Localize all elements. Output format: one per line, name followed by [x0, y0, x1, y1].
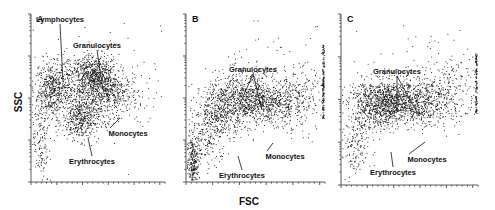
scatter-panel-b: BGranulocytesMonocytesErythrocytes [183, 14, 325, 185]
svg-text:Erythrocytes: Erythrocytes [370, 168, 416, 177]
svg-text:Lymphocytes: Lymphocytes [36, 15, 84, 24]
annotation-monocytes: Monocytes [407, 142, 446, 164]
panel-label: B [192, 14, 199, 24]
scatter-panel-c: CGranulocytesMonocytesErythrocytes [338, 14, 478, 188]
svg-text:Monocytes: Monocytes [108, 129, 147, 138]
svg-text:Monocytes: Monocytes [265, 152, 304, 161]
scatter-panel-a: ALymphocytesGranulocytesMonocytesErythro… [28, 14, 165, 185]
annotation-erythrocytes: Erythrocytes [69, 138, 115, 166]
annotation-monocytes: Monocytes [108, 118, 147, 138]
y-axis-label: SSC [13, 92, 24, 113]
svg-text:Erythrocytes: Erythrocytes [219, 171, 265, 180]
svg-text:Monocytes: Monocytes [407, 155, 446, 164]
flow-cytometry-figure: ALymphocytesGranulocytesMonocytesErythro… [0, 0, 495, 210]
scatter-panels: ALymphocytesGranulocytesMonocytesErythro… [28, 14, 478, 188]
annotation-monocytes: Monocytes [265, 143, 304, 161]
svg-text:Granulocytes: Granulocytes [73, 41, 121, 50]
svg-text:Erythrocytes: Erythrocytes [69, 157, 115, 166]
annotation-erythrocytes: Erythrocytes [219, 156, 265, 180]
x-axis-label: FSC [239, 196, 259, 207]
panel-label: C [347, 14, 354, 24]
svg-text:Granulocytes: Granulocytes [373, 67, 421, 76]
svg-text:Granulocytes: Granulocytes [229, 65, 277, 74]
